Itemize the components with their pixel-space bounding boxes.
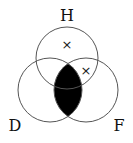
label-h: H [60,6,74,25]
label-d: D [9,116,22,135]
cross-mark-h-only: × [62,37,73,52]
venn-diagram: H D F × × [0,0,133,143]
label-f: F [113,116,124,135]
cross-mark-h-and-f: × [81,63,92,78]
